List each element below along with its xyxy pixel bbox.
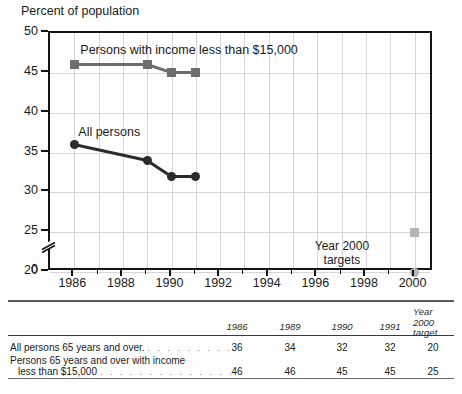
y-tick-50 [41,30,48,32]
x-tick-label-1992: 1992 [195,277,241,290]
gridline-y-30 [50,192,430,193]
gridline-y-45 [50,73,430,74]
chart-figure: Percent of population Persons with incom… [0,0,462,394]
x-tick-label-1998: 1998 [341,277,387,290]
table-cell-r2c1: 46 [214,366,260,377]
x-minor-tick-1997 [340,270,341,274]
gridline-x-1988 [123,33,124,268]
series-label-all-persons: All persons [78,125,140,139]
gridline-y-25 [50,232,430,233]
y-tick-25 [41,229,48,231]
y-tick-label-50: 50 [12,25,38,38]
gridline-x-1996 [317,33,318,268]
x-tick-label-1996: 1996 [292,277,338,290]
data-point-0-1991 [191,68,200,77]
table-rule-header [8,335,454,336]
gridline-x-1995 [293,33,294,268]
y-tick-label-25: 25 [12,224,38,237]
x-minor-tick-1991 [194,270,195,274]
table-cell-r1c3: 32 [319,342,365,353]
data-point-1-1989 [143,156,152,165]
table-rule-bottom [8,378,454,379]
table-row-label-all-persons: All persons 65 years and over. . . . . .… [10,342,232,353]
x-minor-tick-1995 [291,270,292,274]
target-marker-0 [410,228,419,237]
data-point-0-1986 [70,60,79,69]
x-minor-tick-1993 [242,270,243,274]
year-2000-targets-annotation: Year 2000targets [315,239,369,267]
series-label-income: Persons with income less than $15,000 [80,43,298,57]
axis-break-icon [40,237,57,254]
row1-label-text: All persons 65 years and over. [10,342,145,353]
plot-area: Persons with income less than $15,000All… [48,31,432,270]
y-tick-40 [41,110,48,112]
table-cell-r1c5: 20 [410,342,456,353]
chart-title: Percent of population [21,4,139,18]
table-cell-r1c1: 36 [214,342,260,353]
x-tick-label-1986: 1986 [49,277,95,290]
y-tick-20 [41,269,48,271]
x-tick-label-1988: 1988 [98,277,144,290]
table-cell-r2c2: 46 [267,366,313,377]
x-minor-tick-1989 [145,270,146,274]
y-tick-35 [41,150,48,152]
row2-label-text: less than $15,000 [18,366,97,377]
table-col-header-1990: 1990 [322,322,362,333]
y-tick-45 [41,70,48,72]
gridline-x-1999 [390,33,391,268]
table-col-header-1989: 1989 [270,322,310,333]
x-tick-label-2000: 2000 [390,277,436,290]
y-tick-label-0: 0 [12,263,38,276]
data-point-1-1991 [191,172,200,181]
y-tick-label-35: 35 [12,145,38,158]
x-minor-tick-1999 [388,270,389,274]
data-point-0-1990 [167,68,176,77]
gridline-x-1997 [342,33,343,268]
y-tick-label-40: 40 [12,105,38,118]
table-col-header-1991: 1991 [370,322,410,333]
y-tick-label-30: 30 [12,184,38,197]
gridline-y-40 [50,113,430,114]
table-col-header-target: Year 2000 target [413,307,453,339]
gridline-x-1994 [269,33,270,268]
table-rule-top [8,300,454,302]
table-cell-r1c4: 32 [367,342,413,353]
gridline-y-20 [50,272,430,273]
x-tick-label-1994: 1994 [244,277,290,290]
gridline-x-1998 [366,33,367,268]
gridline-x-1992 [220,33,221,268]
table-row-label-income-line1: Persons 65 years and over with income [10,355,185,366]
annotation-line2: targets [315,253,369,267]
annotation-line1: Year 2000 [315,239,369,253]
data-table: 1986 1989 1990 1991 Year 2000 target All… [8,300,454,390]
table-cell-r2c5: 25 [410,366,456,377]
series-0-segment [74,63,147,66]
gridline-x-1993 [244,33,245,268]
y-tick-label-45: 45 [12,65,38,78]
table-cell-r2c3: 45 [319,366,365,377]
table-cell-r1c2: 34 [267,342,313,353]
data-point-0-1989 [143,60,152,69]
table-col-header-1986: 1986 [217,322,257,333]
data-point-1-1986 [70,140,79,149]
y-tick-30 [41,189,48,191]
x-minor-tick-1987 [97,270,98,274]
table-row-label-income-line2: less than $15,000 . . . . . . . . . . . … [18,366,244,377]
data-point-1-1990 [167,172,176,181]
target-header-line3: target [413,328,453,339]
x-tick-label-1990: 1990 [147,277,193,290]
table-cell-r2c4: 45 [367,366,413,377]
